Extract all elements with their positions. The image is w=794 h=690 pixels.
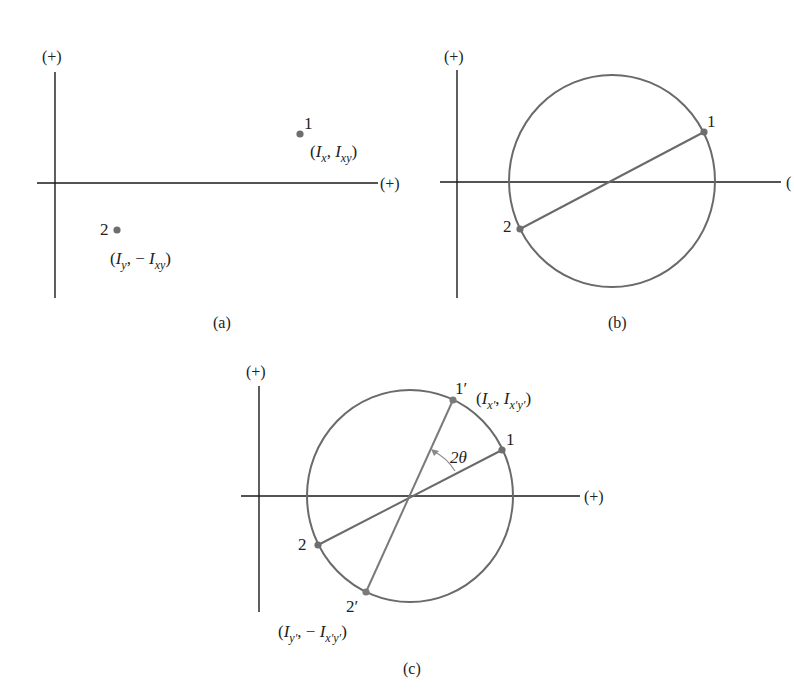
panel-c-diameter-1-2 (318, 450, 502, 545)
panel-c-point-2-prime-label: 2′ (346, 597, 358, 616)
panel-a-caption: (a) (213, 314, 231, 332)
panel-a-point-2-label: 2 (100, 220, 109, 239)
panel-c-x-axis-label: (+) (584, 488, 604, 506)
panel-c-point-2-label: 2 (298, 535, 307, 554)
panel-a-point-2-coords: (Iy, − Ixy) (110, 249, 171, 272)
panel-b-caption: (b) (608, 314, 627, 332)
panel-b-diameter-1-2 (520, 132, 704, 229)
panel-b-point-2-label: 2 (503, 217, 512, 236)
arrowhead-icon (431, 449, 439, 456)
mohr-circle-figure: (+) (+) 1 (Ix, Ixy) 2 (Iy, − Ixy) (a) (+… (0, 0, 794, 690)
panel-c-y-axis-label: (+) (246, 363, 266, 381)
panel-c-point-1-prime-label: 1′ (455, 379, 467, 398)
panel-b-point-2 (516, 225, 523, 232)
panel-a-point-1-coords: (Ix, Ixy) (310, 142, 357, 165)
panel-a-point-1 (296, 130, 303, 137)
panel-a: (+) (+) 1 (Ix, Ixy) 2 (Iy, − Ixy) (a) (37, 48, 400, 332)
panel-c-point-2 (314, 541, 321, 548)
panel-c-point-2-prime (362, 588, 369, 595)
panel-b-x-axis-label: ( (786, 174, 791, 192)
panel-a-point-1-label: 1 (304, 114, 313, 133)
panel-c-point-2-prime-coords: (Iy′, − Ix′y′) (278, 622, 347, 645)
panel-a-point-2 (113, 226, 120, 233)
panel-a-y-axis-label: (+) (42, 48, 62, 66)
panel-a-x-axis-label: (+) (380, 175, 400, 193)
panel-b-y-axis-label: (+) (444, 48, 464, 66)
panel-c-point-1-prime-coords: (Ix′, Ix′y′) (476, 389, 531, 412)
panel-c: (+) (+) 2θ 1 2 1′ (Ix′, Ix′y′) 2′ (Iy′, … (241, 363, 604, 678)
panel-c-caption: (c) (403, 660, 421, 678)
panel-c-point-1 (498, 446, 505, 453)
panel-c-point-1-label: 1 (506, 430, 515, 449)
panel-b: (+) ( 1 2 (b) (440, 48, 791, 332)
panel-b-point-1-label: 1 (707, 112, 716, 131)
panel-c-angle-label: 2θ (450, 448, 467, 467)
